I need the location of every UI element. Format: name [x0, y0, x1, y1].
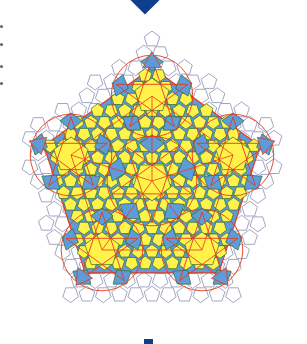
penrose-tiling-figure	[0, 0, 307, 344]
bottom-bar-marker	[144, 339, 153, 344]
